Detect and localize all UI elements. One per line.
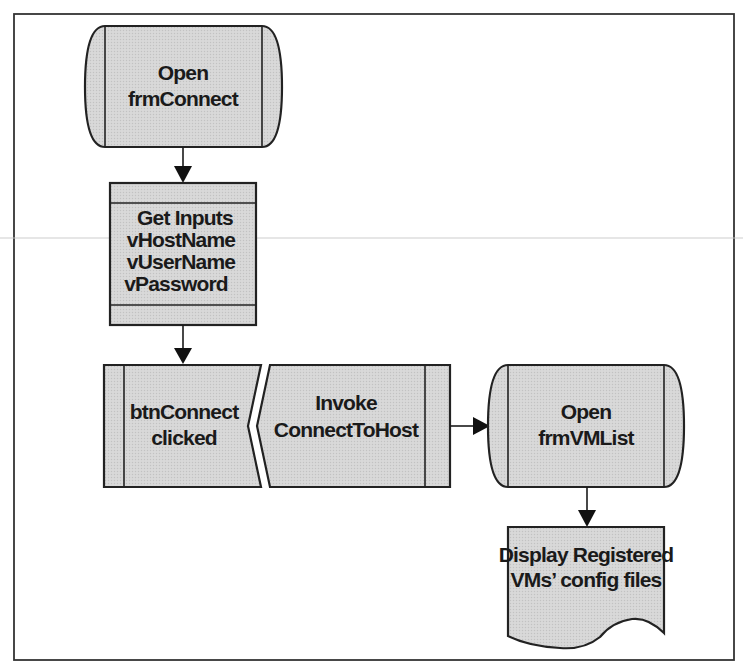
flowchart-diagram: Open frmConnect Get Inputs vHostName vUs… [0,0,743,671]
node-open-frmvmlist-line2: frmVMList [538,426,634,449]
node-get-inputs-line3: vUserName [127,250,235,273]
node-invoke-connecttohost-line1: Invoke [315,391,377,414]
node-invoke-connecttohost-line2: ConnectToHost [274,418,419,441]
node-get-inputs-line1: Get Inputs [137,206,233,229]
node-open-frmconnect-line2: frmConnect [128,87,239,110]
node-invoke-connecttohost: Invoke ConnectToHost [257,365,450,487]
node-open-frmconnect: Open frmConnect [85,26,282,147]
node-open-frmvmlist: Open frmVMList [488,365,684,487]
node-get-inputs: Get Inputs vHostName vUserName vPassword [110,183,256,325]
node-get-inputs-line4: vPassword [124,272,228,295]
node-display-registered-line1: Display Registered [499,543,674,566]
node-btnconnect-clicked-line2: clicked [151,426,217,449]
node-open-frmconnect-line1: Open [158,61,208,84]
node-get-inputs-line2: vHostName [127,228,235,251]
node-btnconnect-clicked: btnConnect clicked [104,365,261,487]
node-btnconnect-clicked-line1: btnConnect [130,400,239,423]
node-open-frmvmlist-line1: Open [561,400,611,423]
node-display-registered-line2: VMs’ config files [511,568,662,591]
